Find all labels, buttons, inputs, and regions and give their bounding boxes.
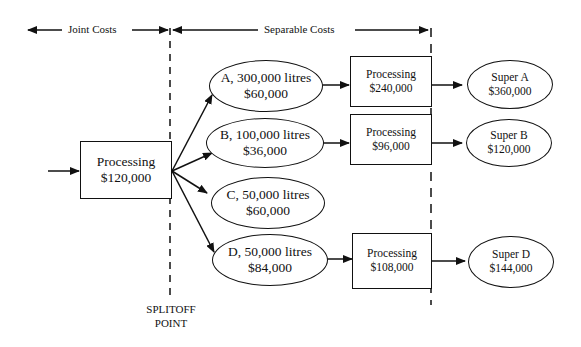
splitoff-point-label: SPLITOFF POINT [130,303,212,331]
product-b-ellipse: B, 100,000 litres $36,000 [206,118,324,168]
joint-processing-label: Processing [97,154,156,170]
product-c-ellipse: C, 50,000 litres $60,000 [211,177,325,229]
joint-processing-box: Processing $120,000 [80,141,172,199]
to-processing-arrows [322,85,352,259]
joint-processing-cost: $120,000 [101,170,152,186]
processing-b-box: Processing $96,000 [350,114,432,165]
to-final-product-arrows [432,85,465,261]
split-arrows [172,95,214,252]
joint-costs-label: Joint Costs [68,23,117,36]
super-d-ellipse: Super D $144,000 [468,236,554,288]
product-a-ellipse: A, 300,000 litres $60,000 [209,60,323,112]
separable-costs-label: Separable Costs [264,23,335,36]
product-d-ellipse: D, 50,000 litres $84,000 [212,234,328,286]
processing-d-box: Processing $108,000 [352,233,432,289]
processing-a-box: Processing $240,000 [350,56,432,107]
super-b-ellipse: Super B $120,000 [466,119,552,167]
super-a-ellipse: Super A $360,000 [467,60,553,109]
